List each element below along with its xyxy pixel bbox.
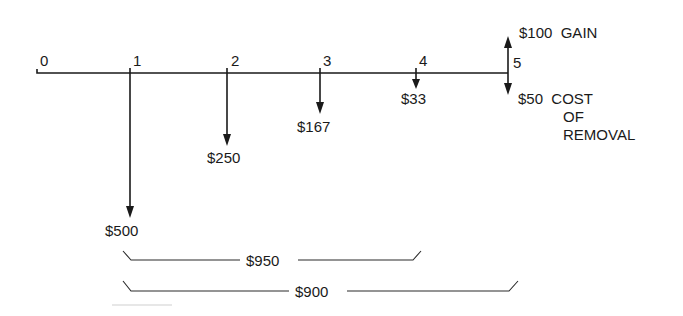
period-label-5: 5 <box>513 54 521 71</box>
cash-flow-arrows-period-5 <box>504 36 512 95</box>
period-label-3: 3 <box>323 52 331 69</box>
cash-flow-amount-3: $167 <box>297 118 330 135</box>
bracket-label-950: $950 <box>246 252 279 269</box>
cost-label-line2: OF <box>563 108 584 125</box>
cash-flow-amount-2: $250 <box>207 149 240 166</box>
time-axis <box>37 69 508 73</box>
arrow-down-icon <box>126 206 134 218</box>
period-label-2: 2 <box>231 52 239 69</box>
cash-flow-amount-4: $33 <box>401 90 426 107</box>
cash-flow-diagram: 0 1 2 3 4 5 $500 $250 $167 $33 $100 GAIN… <box>0 0 683 316</box>
arrow-down-icon <box>316 102 324 114</box>
cash-flow-arrow-period-2 <box>223 68 231 146</box>
arrow-down-icon <box>504 83 512 95</box>
period-label-1: 1 <box>133 52 141 69</box>
cash-flow-arrow-period-3 <box>316 68 324 114</box>
bracket-label-900: $900 <box>295 283 328 300</box>
timeline <box>37 69 508 73</box>
arrow-down-icon <box>412 79 420 89</box>
period-label-4: 4 <box>419 52 427 69</box>
cash-flow-arrow-period-4 <box>412 68 420 89</box>
gain-label: $100 GAIN <box>519 24 597 41</box>
cash-flow-arrow-period-1 <box>126 68 134 218</box>
cost-label-line3: REMOVAL <box>563 126 635 143</box>
arrow-down-icon <box>223 134 231 146</box>
cash-flow-amount-1: $500 <box>105 222 138 239</box>
arrow-up-icon <box>504 36 512 48</box>
cost-label-line1: $50 COST <box>518 90 593 107</box>
period-label-0: 0 <box>40 52 48 69</box>
